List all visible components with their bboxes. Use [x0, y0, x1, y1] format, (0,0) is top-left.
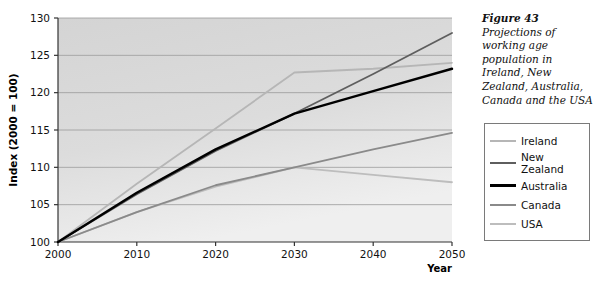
x-tick-marks — [58, 242, 452, 246]
legend-color-swatch — [490, 223, 516, 225]
x-axis-title: Year — [426, 263, 452, 274]
y-tick-label: 110 — [30, 161, 50, 173]
legend-swatch-cell — [485, 162, 521, 164]
legend-swatch-cell — [485, 204, 521, 206]
legend-item-label: Australia — [521, 180, 567, 192]
legend-item-label: Ireland — [521, 135, 557, 147]
x-tick-label: 2010 — [123, 248, 150, 260]
x-tick-labels: 200020102020203020402050 — [45, 248, 466, 260]
y-tick-label: 130 — [30, 12, 50, 24]
legend-item-label: Canada — [521, 199, 561, 211]
legend-item[interactable]: USA — [485, 214, 589, 233]
y-tick-label: 125 — [30, 49, 50, 61]
x-tick-label: 2050 — [439, 248, 466, 260]
legend-swatch-cell — [485, 184, 521, 187]
legend-item[interactable]: New Zealand — [485, 150, 589, 176]
x-tick-label: 2020 — [202, 248, 229, 260]
figure-caption-text: Projections of working age population in… — [482, 26, 594, 108]
chart-panel: 100105110115120125130 200020102020203020… — [0, 0, 480, 283]
figure-container: 100105110115120125130 200020102020203020… — [0, 0, 597, 283]
line-chart: 100105110115120125130 200020102020203020… — [0, 0, 480, 283]
legend-swatch-cell — [485, 140, 521, 142]
y-tick-label: 105 — [30, 198, 50, 210]
legend-color-swatch — [490, 184, 516, 187]
x-tick-label: 2040 — [360, 248, 387, 260]
y-axis-title: Index (2000 = 100) — [7, 73, 19, 186]
legend-item-label: USA — [521, 218, 543, 230]
y-tick-label: 115 — [30, 124, 50, 136]
x-tick-label: 2030 — [281, 248, 308, 260]
y-tick-labels: 100105110115120125130 — [30, 12, 50, 248]
legend-color-swatch — [490, 140, 516, 142]
legend-color-swatch — [490, 204, 516, 206]
x-tick-label: 2000 — [45, 248, 72, 260]
y-tick-label: 120 — [30, 86, 50, 98]
legend-item[interactable]: Australia — [485, 176, 589, 195]
legend-item-label: New Zealand — [521, 151, 589, 175]
right-panel: Figure 43 Projections of working age pop… — [480, 0, 597, 283]
legend-swatch-cell — [485, 223, 521, 225]
legend-item[interactable]: Ireland — [485, 131, 589, 150]
legend-color-swatch — [490, 162, 516, 164]
y-tick-label: 100 — [30, 236, 50, 248]
figure-caption: Figure 43 Projections of working age pop… — [482, 12, 594, 107]
legend-item[interactable]: Canada — [485, 195, 589, 214]
chart-legend: IrelandNew ZealandAustraliaCanadaUSA — [484, 123, 590, 241]
figure-number: Figure 43 — [482, 12, 594, 26]
